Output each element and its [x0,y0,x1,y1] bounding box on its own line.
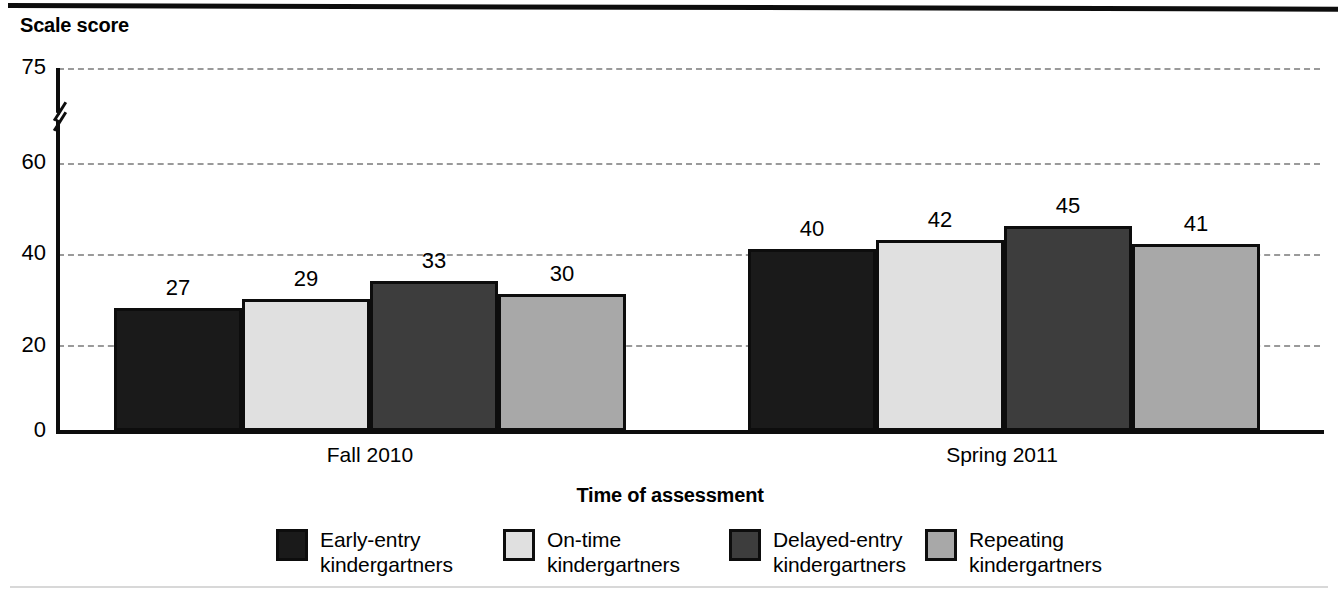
legend-swatch-on-time-icon [503,529,535,561]
legend-label-early-entry-line2: kindergartners [320,553,453,576]
legend-label-delayed-entry-line2: kindergartners [773,553,906,576]
x-axis-group-label-spring-2011: Spring 2011 [882,443,1122,467]
bar-value-fall2010-delayed-entry: 33 [370,250,498,272]
bar-fall2010-repeating[interactable] [498,294,626,431]
bar-spring2011-early-entry[interactable] [748,249,876,431]
legend-label-early-entry-line1: Early-entry [320,528,420,551]
y-tick-label-20: 20 [22,334,46,356]
legend-swatch-delayed-entry-icon [729,529,761,561]
legend-label-delayed-entry: Delayed-entrykindergartners [773,527,906,577]
legend-label-early-entry: Early-entrykindergartners [320,527,453,577]
bar-spring2011-on-time[interactable] [876,240,1004,431]
bar-spring2011-delayed-entry[interactable] [1004,226,1132,431]
y-tick-label-40: 40 [22,242,46,264]
legend-item-repeating[interactable]: Repeatingkindergartners [925,527,1102,577]
legend-label-repeating-line1: Repeating [969,528,1064,551]
chart-legend: Early-entrykindergartners On-timekinderg… [0,527,1340,589]
top-divider-rule [8,3,1338,12]
x-axis-group-label-fall-2010: Fall 2010 [250,443,490,467]
bar-fall2010-on-time[interactable] [242,299,370,431]
legend-item-on-time[interactable]: On-timekindergartners [503,527,680,577]
bar-value-spring2011-on-time: 42 [876,209,1004,231]
bar-fall2010-early-entry[interactable] [114,308,242,431]
y-tick-label-0: 0 [34,419,46,441]
legend-label-repeating-line2: kindergartners [969,553,1102,576]
y-tick-label-75: 75 [22,56,46,78]
bar-value-spring2011-repeating: 41 [1132,213,1260,235]
y-tick-label-60: 60 [22,151,46,173]
legend-label-on-time-line2: kindergartners [547,553,680,576]
legend-label-on-time-line1: On-time [547,528,621,551]
legend-swatch-repeating-icon [925,529,957,561]
x-axis-title: Time of assessment [0,484,1340,507]
legend-item-early-entry[interactable]: Early-entrykindergartners [276,527,453,577]
legend-label-on-time: On-timekindergartners [547,527,680,577]
bar-value-fall2010-on-time: 29 [242,268,370,290]
legend-label-delayed-entry-line1: Delayed-entry [773,528,902,551]
bar-value-spring2011-early-entry: 40 [748,218,876,240]
bar-spring2011-repeating[interactable] [1132,244,1260,431]
bar-value-fall2010-early-entry: 27 [114,277,242,299]
bars-layer [58,68,1320,431]
legend-swatch-early-entry-icon [276,529,308,561]
bar-fall2010-delayed-entry[interactable] [370,281,498,431]
bar-chart-figure: Scale score 75 60 40 20 0 27 29 33 [0,0,1340,595]
legend-label-repeating: Repeatingkindergartners [969,527,1102,577]
bar-value-fall2010-repeating: 30 [498,263,626,285]
legend-item-delayed-entry[interactable]: Delayed-entrykindergartners [729,527,906,577]
bar-value-spring2011-delayed-entry: 45 [1004,195,1132,217]
